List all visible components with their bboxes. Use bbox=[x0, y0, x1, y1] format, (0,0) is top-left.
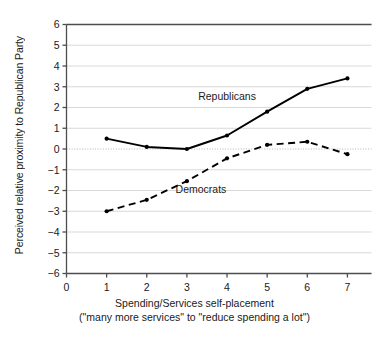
data-point-democrats-7 bbox=[345, 152, 349, 156]
x-tick-label: 5 bbox=[264, 281, 270, 293]
y-tick-label: −4 bbox=[48, 226, 60, 238]
x-tick-label: 0 bbox=[64, 281, 70, 293]
y-axis-ticks: 6543210−1−2−3−4−5−6 bbox=[48, 18, 67, 279]
data-point-republicans-2 bbox=[145, 145, 149, 149]
x-tick-label: 6 bbox=[304, 281, 310, 293]
x-tick-label: 2 bbox=[144, 281, 150, 293]
y-tick-label: 0 bbox=[54, 143, 60, 155]
x-axis-label: Spending/Services self-placement bbox=[0, 296, 389, 310]
data-point-democrats-4 bbox=[225, 156, 229, 160]
x-axis-label-sublabel: ("many more services" to "reduce spendin… bbox=[0, 310, 389, 324]
chart-root: Perceived relative proximity to Republic… bbox=[0, 0, 389, 347]
series-label-democrats: Democrats bbox=[176, 183, 227, 195]
y-tick-label: 4 bbox=[54, 60, 60, 72]
x-axis-ticks: 01234567 bbox=[64, 274, 351, 293]
y-tick-label: 6 bbox=[54, 18, 60, 30]
x-tick-label: 4 bbox=[224, 281, 230, 293]
y-tick-label: 5 bbox=[54, 39, 60, 51]
x-tick-label: 1 bbox=[104, 281, 110, 293]
plot-frame bbox=[67, 25, 372, 274]
y-tick-label: 3 bbox=[54, 81, 60, 93]
gridlines bbox=[67, 25, 372, 274]
y-tick-label: −5 bbox=[48, 247, 60, 259]
y-tick-label: −6 bbox=[48, 267, 60, 279]
data-point-republicans-5 bbox=[265, 110, 269, 114]
data-point-republicans-7 bbox=[345, 76, 349, 80]
y-tick-label: −1 bbox=[48, 164, 60, 176]
series-annotations: RepublicansDemocrats bbox=[176, 90, 256, 194]
x-tick-label: 7 bbox=[344, 281, 350, 293]
data-point-republicans-3 bbox=[185, 147, 189, 151]
data-point-republicans-6 bbox=[305, 87, 309, 91]
data-point-republicans-1 bbox=[105, 137, 109, 141]
data-point-democrats-2 bbox=[145, 198, 149, 202]
x-tick-label: 3 bbox=[184, 281, 190, 293]
series-line-republicans bbox=[107, 78, 348, 149]
y-tick-label: −3 bbox=[48, 205, 60, 217]
y-tick-label: −2 bbox=[48, 184, 60, 196]
data-point-democrats-5 bbox=[265, 143, 269, 147]
data-point-democrats-6 bbox=[305, 140, 309, 144]
series-label-republicans: Republicans bbox=[198, 90, 256, 102]
x-axis-label-container: Spending/Services self-placement ("many … bbox=[0, 296, 389, 324]
y-tick-label: 1 bbox=[54, 122, 60, 134]
line-chart-plot: 6543210−1−2−3−4−5−6 01234567 Republicans… bbox=[0, 0, 389, 347]
data-point-democrats-1 bbox=[105, 209, 109, 213]
y-tick-label: 2 bbox=[54, 101, 60, 113]
series-line-democrats bbox=[107, 142, 348, 212]
data-point-republicans-4 bbox=[225, 133, 229, 137]
